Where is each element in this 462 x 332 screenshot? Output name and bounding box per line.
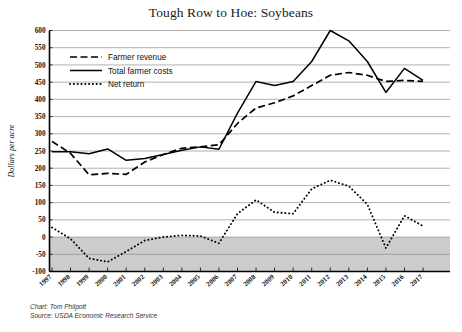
x-tick-label: 1999 <box>75 273 91 289</box>
credit-chart-line: Chart: Tom Philpott <box>30 303 87 311</box>
x-tick-label: 2002 <box>130 273 146 289</box>
x-tick-label: 2009 <box>260 273 276 289</box>
legend-label: Farmer revenue <box>108 53 167 62</box>
y-tick-label: -100 <box>32 268 46 276</box>
legend-label: Net return <box>108 80 145 89</box>
legend-label: Total farmer costs <box>108 67 173 76</box>
x-tick-label: 2006 <box>205 273 221 289</box>
x-tick-label: 1998 <box>56 273 72 289</box>
soybean-line-chart: -100-50050100150200250300350400450500550… <box>0 0 462 332</box>
x-tick-label: 2000 <box>93 273 109 289</box>
x-tick-label: 2016 <box>390 273 406 289</box>
y-tick-label: 450 <box>35 79 46 87</box>
x-tick-label: 2017 <box>409 273 425 289</box>
y-tick-label: 250 <box>35 148 46 156</box>
series-line-total-farmer-costs <box>52 31 423 161</box>
x-tick-label: 2013 <box>334 273 350 289</box>
y-tick-label: 600 <box>35 27 46 35</box>
chart-page: Tough Row to Hoe: Soybeans -100-50050100… <box>0 0 462 332</box>
x-tick-label: 2004 <box>167 273 183 289</box>
y-tick-label: 150 <box>35 182 46 190</box>
x-tick-label: 2001 <box>112 273 128 289</box>
y-tick-label: 500 <box>35 62 46 70</box>
y-tick-label: 300 <box>35 130 46 138</box>
x-tick-label: 2014 <box>353 273 369 289</box>
x-tick-label: 2015 <box>371 273 387 289</box>
y-tick-label: 350 <box>35 113 46 121</box>
chart-legend: Farmer revenueTotal farmer costsNet retu… <box>70 53 173 89</box>
y-tick-label: 550 <box>35 44 46 52</box>
credit-source-line: Source: USDA Economic Research Service <box>30 312 158 319</box>
y-tick-label: 100 <box>35 199 46 207</box>
y-tick-label: 200 <box>35 165 46 173</box>
y-tick-label: 50 <box>38 216 46 224</box>
x-tick-label: 2005 <box>186 273 202 289</box>
x-tick-label: 2010 <box>279 273 295 289</box>
y-axis-label: Dollars per acre <box>7 124 16 178</box>
y-tick-label: 400 <box>35 96 46 104</box>
x-tick-label: 2003 <box>149 273 165 289</box>
y-tick-label: 0 <box>42 234 46 242</box>
x-tick-label: 2011 <box>298 273 314 288</box>
x-tick-label: 2012 <box>316 273 332 289</box>
x-tick-label: 2007 <box>223 273 239 289</box>
x-tick-label: 2008 <box>242 273 258 289</box>
y-tick-label: -50 <box>36 251 46 259</box>
